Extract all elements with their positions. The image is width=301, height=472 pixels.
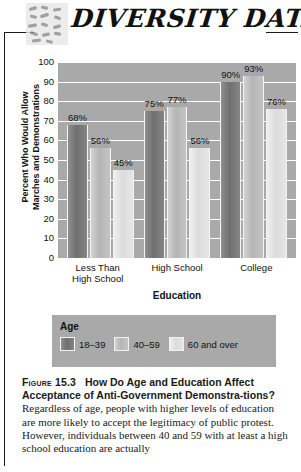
- bar-group: 75%77%56%: [139, 62, 216, 258]
- bar: 75%: [144, 111, 165, 258]
- y-axis-tick-label: 90: [26, 76, 54, 87]
- legend-swatch: [169, 337, 184, 351]
- caption-body: Regardless of age, people with higher le…: [22, 402, 288, 454]
- x-axis-title: Education: [58, 290, 296, 301]
- y-axis-tick-label: 30: [26, 193, 54, 204]
- bar-group: 68%56%45%: [62, 62, 139, 258]
- chart-legend: Age 18–3940–5960 and over: [52, 315, 276, 367]
- figure-caption: Figure 15.3 How Do Age and Education Aff…: [22, 376, 290, 455]
- bar-value-label: 93%: [244, 63, 263, 74]
- bar-value-label: 90%: [221, 69, 240, 80]
- bar-value-label: 76%: [267, 96, 286, 107]
- legend-swatch: [60, 337, 75, 351]
- bar-value-label: 68%: [68, 112, 87, 123]
- legend-items: 18–3940–5960 and over: [60, 337, 268, 351]
- mosaic-logo-icon: [26, 3, 68, 45]
- x-axis-tick-label: High School: [137, 262, 216, 284]
- legend-title: Age: [60, 321, 268, 332]
- bar-value-label: 77%: [167, 94, 186, 105]
- bar: 56%: [90, 148, 111, 258]
- x-axis-tick-line: High School: [137, 262, 216, 273]
- legend-label: 60 and over: [188, 339, 238, 350]
- legend-item: 18–39: [60, 337, 105, 351]
- bar: 76%: [266, 109, 287, 258]
- y-axis-tick-label: 70: [26, 115, 54, 126]
- page-header: DIVERSITY DATA: [0, 0, 301, 52]
- chart-figure: Percent Who Would Allow Marches and Demo…: [0, 52, 301, 307]
- y-axis-tick-label: 80: [26, 95, 54, 106]
- legend-label: 40–59: [133, 339, 159, 350]
- y-axis-tick-label: 50: [26, 154, 54, 165]
- legend-item: 40–59: [114, 337, 159, 351]
- y-axis-tick-label: 10: [26, 232, 54, 243]
- x-axis-tick-line: High School: [58, 273, 137, 284]
- brand-title: DIVERSITY DATA: [70, 4, 301, 33]
- legend-swatch: [114, 337, 129, 351]
- bar-value-label: 45%: [114, 157, 133, 168]
- bar: 68%: [67, 125, 88, 258]
- bar: 93%: [243, 76, 264, 258]
- bar: 56%: [189, 148, 210, 258]
- y-axis-tick-label: 100: [26, 56, 54, 67]
- caption-bottom-clip: [0, 466, 301, 472]
- x-axis-ticks: Less ThanHigh SchoolHigh SchoolCollege: [58, 262, 296, 284]
- x-axis-tick-label: College: [217, 262, 296, 284]
- bar-group: 90%93%76%: [215, 62, 292, 258]
- caption-headline: Figure 15.3 How Do Age and Education Aff…: [22, 376, 275, 401]
- bar-value-label: 56%: [190, 135, 209, 146]
- bar: 77%: [167, 107, 188, 258]
- legend-label: 18–39: [79, 339, 105, 350]
- y-axis-tick-label: 0: [26, 252, 54, 263]
- y-axis-tick-label: 60: [26, 134, 54, 145]
- plot-area: 68%56%45%75%77%56%90%93%76%: [58, 62, 296, 258]
- x-axis-tick-label: Less ThanHigh School: [58, 262, 137, 284]
- legend-item: 60 and over: [169, 337, 238, 351]
- y-axis-tick-label: 20: [26, 213, 54, 224]
- caption-figure-number: Figure 15.3: [22, 376, 76, 388]
- x-axis-tick-line: College: [217, 262, 296, 273]
- gridline: [58, 258, 296, 259]
- y-axis-tick-label: 40: [26, 174, 54, 185]
- bar: 45%: [113, 170, 134, 258]
- bar-value-label: 56%: [91, 135, 110, 146]
- bar: 90%: [220, 82, 241, 258]
- bar-value-label: 75%: [145, 98, 164, 109]
- bar-groups: 68%56%45%75%77%56%90%93%76%: [58, 62, 296, 258]
- x-axis-tick-line: Less Than: [58, 262, 137, 273]
